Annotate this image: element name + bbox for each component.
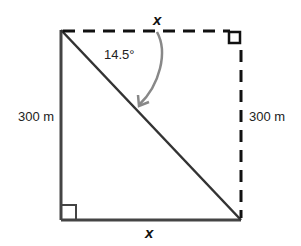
right-side-label: 300 m (249, 109, 285, 124)
right-angle-mark-top (229, 32, 240, 43)
right-angle-mark-bottom (61, 205, 76, 220)
angle-arc (139, 32, 162, 105)
hypotenuse (61, 30, 241, 220)
angle-label: 14.5° (104, 47, 135, 62)
triangle-diagram: x x 300 m 300 m 14.5° (0, 0, 301, 246)
top-x-label: x (152, 11, 162, 28)
left-side-label: 300 m (18, 109, 54, 124)
bottom-x-label: x (144, 224, 154, 241)
